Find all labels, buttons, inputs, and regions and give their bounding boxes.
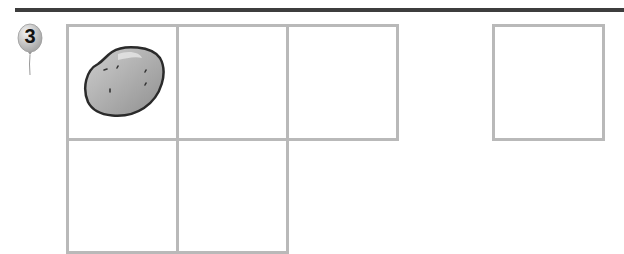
exercise-number: 3 — [17, 25, 43, 48]
answer-box[interactable] — [492, 24, 605, 141]
potato-icon — [82, 44, 166, 120]
grid-cell-r1c3 — [286, 24, 399, 141]
header-rule — [15, 8, 624, 12]
grid-cell-r2c1 — [66, 138, 179, 254]
grid-cell-r1c2 — [176, 24, 289, 141]
grid-cell-r2c2 — [176, 138, 289, 254]
